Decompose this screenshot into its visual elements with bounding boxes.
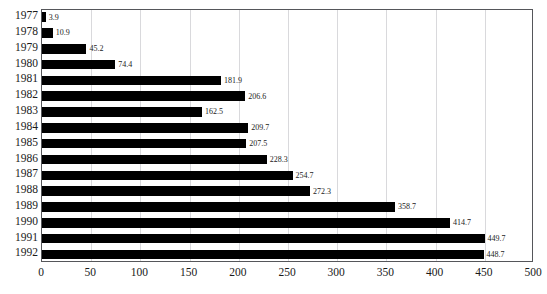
bar-value-label: 448.7: [487, 248, 505, 261]
bar-row: 358.7: [42, 200, 532, 216]
plot-area: 3.910.945.274.4181.9206.6162.5209.7207.5…: [41, 9, 533, 262]
y-axis-tick-1983: 1983: [0, 104, 38, 117]
x-axis-labels: 050100150200250300350400450500: [0, 265, 547, 285]
y-axis-tick-1978: 1978: [0, 25, 38, 38]
bar-value-label: 207.5: [249, 137, 267, 150]
bar-row: 209.7: [42, 121, 532, 137]
bar-row: 414.7: [42, 216, 532, 232]
chart-title: [0, 0, 547, 3]
bar-row: 45.2: [42, 42, 532, 58]
bar-row: 207.5: [42, 137, 532, 153]
y-axis-tick-1992: 1992: [0, 246, 38, 259]
bar-1988: [42, 186, 310, 196]
x-axis-tick-450: 450: [475, 265, 492, 280]
y-axis-tick-1987: 1987: [0, 167, 38, 180]
bar-1983: [42, 107, 202, 117]
bar-row: 162.5: [42, 105, 532, 121]
bar-1978: [42, 28, 53, 38]
bar-value-label: 3.9: [49, 11, 59, 24]
bar-1981: [42, 76, 221, 86]
x-axis-tick-250: 250: [278, 265, 295, 280]
x-axis-tick-500: 500: [524, 265, 541, 280]
y-axis-tick-1982: 1982: [0, 88, 38, 101]
bar-value-label: 209.7: [251, 121, 269, 134]
bar-1984: [42, 123, 248, 133]
y-axis-tick-1991: 1991: [0, 231, 38, 244]
y-axis-tick-1980: 1980: [0, 57, 38, 70]
bar-1982: [42, 91, 245, 101]
bar-value-label: 181.9: [224, 74, 242, 87]
bar-chart: 1977197819791980198119821983198419851986…: [0, 0, 547, 294]
bar-row: 272.3: [42, 184, 532, 200]
y-axis-tick-1989: 1989: [0, 199, 38, 212]
bar-value-label: 358.7: [398, 200, 416, 213]
x-axis-tick-400: 400: [426, 265, 443, 280]
y-axis-tick-1984: 1984: [0, 120, 38, 133]
bar-row: 206.6: [42, 89, 532, 105]
x-axis-tick-200: 200: [229, 265, 246, 280]
bar-1985: [42, 139, 246, 149]
x-axis-tick-300: 300: [328, 265, 345, 280]
bar-value-label: 206.6: [248, 90, 266, 103]
x-axis-tick-50: 50: [84, 265, 96, 280]
bar-value-label: 228.3: [270, 153, 288, 166]
bar-1987: [42, 171, 293, 181]
bar-rows: 3.910.945.274.4181.9206.6162.5209.7207.5…: [42, 10, 532, 261]
bar-value-label: 449.7: [488, 232, 506, 245]
bar-row: 3.9: [42, 10, 532, 26]
y-axis-tick-1981: 1981: [0, 72, 38, 85]
y-axis-tick-1979: 1979: [0, 41, 38, 54]
y-axis-tick-1988: 1988: [0, 183, 38, 196]
x-axis-tick-0: 0: [38, 265, 44, 280]
bar-1992: [42, 250, 484, 260]
bar-value-label: 10.9: [56, 26, 70, 39]
bar-1990: [42, 218, 450, 228]
bar-row: 449.7: [42, 231, 532, 247]
bar-row: 10.9: [42, 26, 532, 42]
bar-row: 448.7: [42, 247, 532, 263]
bar-1977: [42, 12, 46, 22]
bar-1986: [42, 155, 267, 165]
bar-row: 74.4: [42, 57, 532, 73]
y-axis-tick-1986: 1986: [0, 152, 38, 165]
bar-1989: [42, 202, 395, 212]
bar-row: 181.9: [42, 73, 532, 89]
bar-value-label: 45.2: [89, 42, 103, 55]
bar-value-label: 162.5: [205, 105, 223, 118]
bar-value-label: 272.3: [313, 185, 331, 198]
y-axis-tick-1985: 1985: [0, 136, 38, 149]
bar-1980: [42, 60, 115, 70]
y-axis-tick-1977: 1977: [0, 9, 38, 22]
x-axis-tick-100: 100: [131, 265, 148, 280]
bar-value-label: 74.4: [118, 58, 132, 71]
bar-row: 228.3: [42, 152, 532, 168]
x-axis-tick-350: 350: [377, 265, 394, 280]
bar-1991: [42, 234, 485, 244]
bar-row: 254.7: [42, 168, 532, 184]
bar-value-label: 414.7: [453, 216, 471, 229]
bar-1979: [42, 44, 86, 54]
bar-value-label: 254.7: [296, 169, 314, 182]
y-axis-labels: 1977197819791980198119821983198419851986…: [0, 9, 38, 262]
y-axis-tick-1990: 1990: [0, 215, 38, 228]
x-axis-tick-150: 150: [180, 265, 197, 280]
